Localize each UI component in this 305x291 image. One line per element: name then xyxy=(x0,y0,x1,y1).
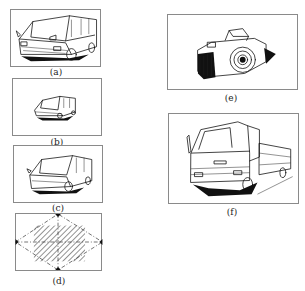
caption-d: (d) xyxy=(44,276,74,286)
composition-diagram xyxy=(16,214,101,270)
caption-e: (e) xyxy=(216,93,246,103)
caption-f: (f) xyxy=(217,207,247,217)
center-axes xyxy=(16,214,103,270)
panel-a-frame xyxy=(10,9,101,67)
van-large-illustration xyxy=(11,10,100,66)
hatched-region xyxy=(34,226,85,262)
camera-illustration xyxy=(168,15,297,89)
panel-f-frame xyxy=(168,113,299,204)
panel-d-frame xyxy=(15,213,102,271)
panel-b-frame xyxy=(12,78,102,136)
panel-c-frame xyxy=(13,145,103,203)
caption-a: (a) xyxy=(41,67,71,77)
panel-e-frame xyxy=(167,14,298,90)
van-small-illustration xyxy=(13,79,101,135)
truck-illustration xyxy=(169,114,298,203)
van-medium-illustration xyxy=(14,146,102,202)
caption-c: (c) xyxy=(43,203,73,213)
